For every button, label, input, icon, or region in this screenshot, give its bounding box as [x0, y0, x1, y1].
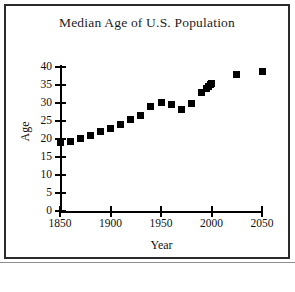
x-axis-tick: [261, 206, 263, 217]
data-point: [87, 132, 94, 139]
data-point: [233, 71, 240, 78]
y-axis-tick-label: 5: [8, 187, 52, 199]
y-axis-tick-label: 0: [8, 205, 52, 217]
x-axis-tick-label: 1850: [35, 218, 85, 230]
data-point: [208, 80, 215, 87]
x-axis-tick-label: 1900: [86, 218, 136, 230]
page-border-right: [288, 4, 290, 259]
y-axis-tick: [55, 120, 66, 122]
y-axis-tick: [55, 66, 66, 68]
data-point: [168, 101, 175, 108]
y-axis-title: Age: [18, 102, 33, 162]
x-axis-title: Year: [60, 238, 263, 253]
chart-figure: Median Age of U.S. Population 0510152025…: [6, 6, 288, 257]
x-axis-tick-label: 2000: [187, 218, 237, 230]
y-axis-tick-label: 35: [8, 79, 52, 91]
y-axis-tick-label: 10: [8, 169, 52, 181]
page-border-bottom: [4, 257, 290, 259]
x-axis-tick: [110, 206, 112, 217]
y-axis-tick: [55, 84, 66, 86]
page-edge-shadow: [0, 262, 295, 263]
y-axis-tick: [55, 102, 66, 104]
x-axis-tick: [211, 206, 213, 217]
y-axis-tick-label: 40: [8, 61, 52, 73]
data-point: [107, 125, 114, 132]
y-axis-tick: [55, 192, 66, 194]
data-point: [67, 138, 74, 145]
y-axis-tick: [55, 156, 66, 158]
data-point: [127, 116, 134, 123]
data-point: [158, 99, 165, 106]
x-axis-tick: [160, 206, 162, 217]
data-point: [147, 103, 154, 110]
data-point: [97, 128, 104, 135]
data-point: [178, 106, 185, 113]
data-point: [259, 68, 266, 75]
data-point: [57, 139, 64, 146]
x-axis-tick-label: 2050: [237, 218, 287, 230]
plot-region: 0510152025303540 18501900195020002050 Ag…: [6, 6, 288, 257]
data-point: [188, 100, 195, 107]
data-point: [137, 112, 144, 119]
y-axis-tick: [55, 174, 66, 176]
data-point: [117, 121, 124, 128]
data-point: [77, 135, 84, 142]
scanned-page: Median Age of U.S. Population 0510152025…: [0, 0, 295, 292]
x-axis-tick-label: 1950: [136, 218, 186, 230]
x-axis-tick: [59, 206, 61, 217]
